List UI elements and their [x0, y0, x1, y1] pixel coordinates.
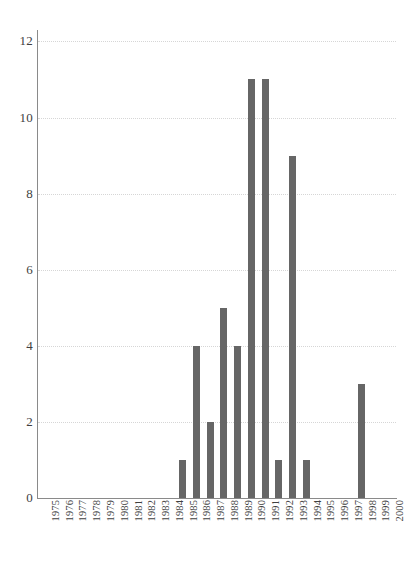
x-axis-tick-label: 1986 — [201, 500, 212, 562]
x-axis-tick-label: 1993 — [298, 500, 309, 562]
y-axis-tick-label: 8 — [3, 187, 33, 200]
x-axis-tick-label: 1998 — [367, 500, 378, 562]
x-axis-tick-label: 1979 — [105, 500, 116, 562]
x-axis-tick-label: 1991 — [270, 500, 281, 562]
x-axis-tick-label: 1984 — [174, 500, 185, 562]
y-axis-tick-label: 4 — [3, 339, 33, 352]
x-axis-tick-label: 1994 — [312, 500, 323, 562]
x-axis-tick-label: 1989 — [243, 500, 254, 562]
bar[interactable] — [220, 308, 227, 498]
x-axis-tick-label: 1987 — [215, 500, 226, 562]
x-axis-tick-label: 1990 — [256, 500, 267, 562]
x-axis-tick-label: 1992 — [284, 500, 295, 562]
y-axis-tick-label: 2 — [3, 415, 33, 428]
bar-series — [38, 30, 396, 498]
x-axis-tick-label: 1988 — [229, 500, 240, 562]
y-axis-tick-label: 0 — [3, 491, 33, 504]
bar[interactable] — [358, 384, 365, 498]
x-axis-tick-label: 1999 — [380, 500, 391, 562]
x-axis-spine — [37, 498, 397, 499]
x-axis-tick-labels: 1975197619771978197919801981198219831984… — [38, 500, 396, 565]
bar[interactable] — [179, 460, 186, 498]
bar[interactable] — [248, 79, 255, 498]
x-axis-tick-label: 1997 — [353, 500, 364, 562]
y-axis-tick-label: 6 — [3, 263, 33, 276]
y-axis-spine — [37, 30, 38, 499]
x-axis-tick-label: 1980 — [119, 500, 130, 562]
y-axis-tick-label: 12 — [3, 34, 33, 47]
bar[interactable] — [289, 156, 296, 498]
x-axis-tick-label: 2000 — [394, 500, 405, 562]
y-axis-tick-label: 10 — [3, 111, 33, 124]
x-axis-tick-label: 1982 — [146, 500, 157, 562]
x-axis-tick-label: 1977 — [77, 500, 88, 562]
x-axis-tick-label: 1978 — [91, 500, 102, 562]
bar-chart: 024681012 197519761977197819791980198119… — [0, 0, 412, 565]
bar[interactable] — [275, 460, 282, 498]
bar[interactable] — [303, 460, 310, 498]
x-axis-tick-label: 1983 — [160, 500, 171, 562]
x-axis-tick-label: 1976 — [64, 500, 75, 562]
x-axis-tick-label: 1975 — [50, 500, 61, 562]
bar[interactable] — [262, 79, 269, 498]
bar[interactable] — [193, 346, 200, 498]
x-axis-tick-label: 1995 — [325, 500, 336, 562]
x-axis-tick-label: 1996 — [339, 500, 350, 562]
x-axis-tick-label: 1981 — [133, 500, 144, 562]
bar[interactable] — [234, 346, 241, 498]
bar[interactable] — [207, 422, 214, 498]
y-axis-tick-labels: 024681012 — [0, 0, 33, 565]
x-axis-tick-label: 1985 — [188, 500, 199, 562]
